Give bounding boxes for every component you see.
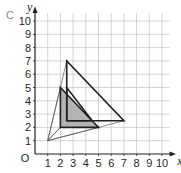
x-tick-label: 4	[83, 157, 89, 169]
x-axis-label: x	[176, 154, 181, 168]
x-tick-label: 3	[70, 157, 76, 169]
x-tick-label: 7	[121, 157, 127, 169]
y-tick-label: 4	[25, 95, 31, 107]
y-tick-label: 10	[19, 15, 31, 27]
x-tick-label: 6	[108, 157, 114, 169]
y-tick-label: 8	[25, 42, 31, 54]
y-axis-label: y	[26, 0, 33, 14]
y-tick-label: 7	[25, 55, 31, 67]
origin-label: O	[21, 152, 30, 164]
x-tick-label: 2	[57, 157, 63, 169]
x-tick-label: 1	[45, 157, 51, 169]
x-tick-label: 9	[146, 157, 152, 169]
y-tick-label: 3	[25, 108, 31, 120]
y-tick-label: 1	[25, 135, 31, 147]
x-tick-label: 8	[134, 157, 140, 169]
y-tick-label: 2	[25, 121, 31, 133]
y-tick-label: 9	[25, 28, 31, 40]
x-tick-label: 5	[95, 157, 101, 169]
part-label: C	[6, 9, 14, 21]
x-axis-arrow-icon	[170, 152, 176, 157]
x-tick-label: 10	[156, 157, 168, 169]
coordinate-grid-diagram: 1234567891012345678910OxyC	[0, 0, 181, 173]
y-tick-label: 5	[25, 82, 31, 94]
y-tick-label: 6	[25, 68, 31, 80]
y-axis-arrow-icon	[33, 6, 38, 13]
